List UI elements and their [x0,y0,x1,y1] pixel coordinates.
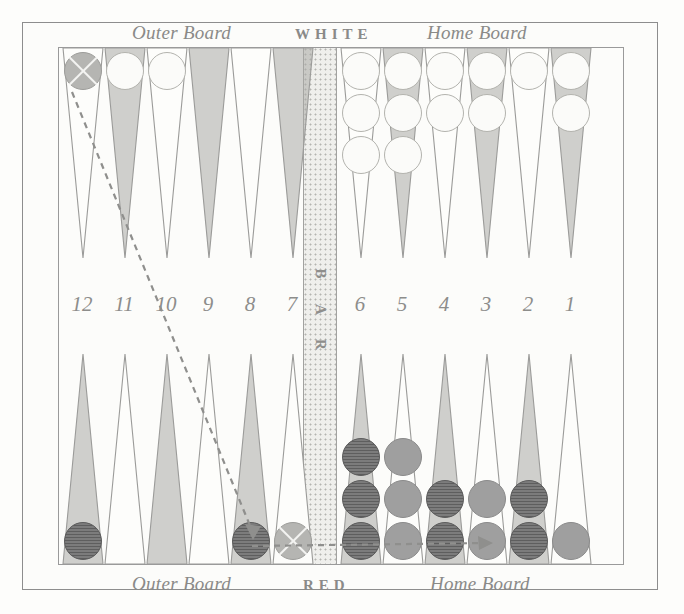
checker-white[interactable] [342,136,380,174]
point-triangle [272,48,314,263]
point-number-7: 7 [272,292,312,317]
checker-light[interactable] [468,480,506,518]
bottom-points-container [60,349,622,564]
bottom-player-label: RED [303,577,350,594]
checker-light[interactable] [384,480,422,518]
point-triangle [104,349,146,564]
checker-dark[interactable] [510,522,548,560]
bottom-point-11[interactable] [104,349,146,564]
bottom-point-3[interactable] [466,349,508,564]
checker-white[interactable] [468,94,506,132]
point-number-11: 11 [104,292,144,317]
checker-dark[interactable] [426,522,464,560]
checker-marked[interactable] [64,52,102,90]
checker-white[interactable] [342,52,380,90]
bottom-point-6[interactable] [340,349,382,564]
checker-white[interactable] [384,94,422,132]
checker-dark[interactable] [342,522,380,560]
checker-white[interactable] [384,136,422,174]
top-home-board-label: Home Board [427,22,527,44]
checker-dark[interactable] [510,480,548,518]
top-outer-board-label: Outer Board [132,22,231,44]
point-number-5: 5 [382,292,422,317]
top-point-11[interactable] [104,48,146,263]
top-point-10[interactable] [146,48,188,263]
bottom-point-1[interactable] [550,349,592,564]
checker-light[interactable] [384,438,422,476]
top-point-8[interactable] [230,48,272,263]
point-number-6: 6 [340,292,380,317]
point-number-9: 9 [188,292,228,317]
bottom-point-5[interactable] [382,349,424,564]
bottom-point-2[interactable] [508,349,550,564]
point-triangle [146,349,188,564]
top-point-5[interactable] [382,48,424,263]
checker-white[interactable] [342,94,380,132]
bottom-point-7[interactable] [272,349,314,564]
diagram-page: Outer Board WHITE Home Board Outer Board… [0,0,684,614]
board-bottom-rail [58,564,624,565]
checker-dark[interactable] [342,480,380,518]
checker-light[interactable] [468,522,506,560]
checker-dark[interactable] [64,522,102,560]
top-player-label: WHITE [295,26,373,43]
point-number-4: 4 [424,292,464,317]
checker-white[interactable] [106,52,144,90]
point-triangle [188,349,230,564]
point-number-12: 12 [62,292,102,317]
bottom-point-4[interactable] [424,349,466,564]
checker-white[interactable] [468,52,506,90]
checker-light[interactable] [552,522,590,560]
bar-letter-b: B [311,268,328,278]
bottom-point-9[interactable] [188,349,230,564]
bottom-point-12[interactable] [62,349,104,564]
checker-marked[interactable] [274,522,312,560]
point-triangle [230,48,272,263]
checker-white[interactable] [426,94,464,132]
bottom-point-10[interactable] [146,349,188,564]
point-number-8: 8 [230,292,270,317]
checker-dark[interactable] [232,522,270,560]
checker-white[interactable] [384,52,422,90]
top-point-4[interactable] [424,48,466,263]
checker-white[interactable] [426,52,464,90]
top-points-container [60,48,622,263]
checker-dark[interactable] [426,480,464,518]
bottom-home-board-label: Home Board [430,573,530,595]
checker-light[interactable] [384,522,422,560]
bottom-point-8[interactable] [230,349,272,564]
point-number-1: 1 [550,292,590,317]
top-point-7[interactable] [272,48,314,263]
point-number-10: 10 [146,292,186,317]
point-number-2: 2 [508,292,548,317]
top-point-12[interactable] [62,48,104,263]
top-point-1[interactable] [550,48,592,263]
checker-white[interactable] [552,94,590,132]
point-number-3: 3 [466,292,506,317]
checker-dark[interactable] [342,438,380,476]
top-point-9[interactable] [188,48,230,263]
top-point-2[interactable] [508,48,550,263]
point-numbers-row: 121110987654321 [60,292,622,328]
checker-white[interactable] [148,52,186,90]
top-point-6[interactable] [340,48,382,263]
top-point-3[interactable] [466,48,508,263]
checker-white[interactable] [510,52,548,90]
point-triangle [188,48,230,263]
bottom-outer-board-label: Outer Board [132,573,231,595]
checker-white[interactable] [552,52,590,90]
